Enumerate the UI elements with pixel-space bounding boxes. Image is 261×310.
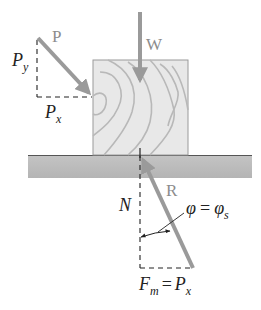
label-fm-equation: Fm=Px: [138, 274, 192, 298]
label-p: P: [52, 27, 61, 46]
label-n: N: [118, 195, 132, 215]
label-py: Py: [11, 50, 29, 74]
label-r: R: [166, 181, 178, 200]
label-w: W: [146, 35, 163, 54]
force-p-arrow: [38, 38, 89, 93]
label-phi-equation: φ=φs: [186, 198, 229, 222]
friction-diagram: P W R Py Px N φ=φs Fm=Px: [0, 0, 261, 310]
label-px: Px: [44, 102, 62, 126]
